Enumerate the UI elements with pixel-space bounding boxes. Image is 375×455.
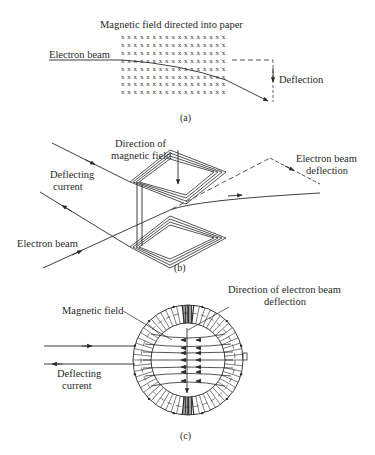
field-x-marker: x bbox=[197, 49, 201, 57]
winding-turn bbox=[133, 364, 151, 366]
deflecting-current-label-c-line2: current bbox=[62, 380, 92, 391]
field-x-marker-grid: xxxxxxxxxxxxxxxxxxxxxxxxxxxxxxxxxxxxxxxx… bbox=[121, 33, 226, 96]
beam-deflection-direction-label-line2: deflection bbox=[264, 296, 307, 307]
field-x-marker: x bbox=[159, 73, 163, 81]
field-x-marker: x bbox=[216, 57, 220, 65]
current-in-arrow-icon bbox=[85, 160, 95, 165]
beam-deflection-label-line1: Electron beam bbox=[296, 153, 357, 164]
current-out-arrow-icon bbox=[62, 205, 72, 211]
winding-terminal-dot bbox=[201, 306, 203, 308]
winding-turn bbox=[177, 396, 181, 414]
field-x-marker: x bbox=[216, 88, 220, 96]
field-x-marker: x bbox=[190, 80, 194, 88]
beam-in-arrow-icon bbox=[72, 250, 82, 255]
field-x-marker: x bbox=[203, 80, 207, 88]
field-x-marker: x bbox=[165, 73, 169, 81]
field-x-marker: x bbox=[153, 73, 157, 81]
field-x-marker: x bbox=[171, 33, 175, 41]
field-x-marker: x bbox=[190, 73, 194, 81]
winding-terminal-dot bbox=[148, 398, 150, 400]
electron-beam-label-b: Electron beam bbox=[17, 238, 78, 249]
field-x-marker: x bbox=[146, 41, 150, 49]
winding-turn bbox=[224, 349, 242, 353]
field-x-marker: x bbox=[121, 80, 125, 88]
field-x-marker: x bbox=[127, 88, 131, 96]
field-x-marker: x bbox=[146, 88, 150, 96]
field-x-marker: x bbox=[184, 49, 188, 57]
field-x-marker: x bbox=[184, 88, 188, 96]
lower-deflection-coil bbox=[130, 216, 226, 268]
field-x-marker: x bbox=[216, 80, 220, 88]
winding-turn bbox=[134, 349, 152, 353]
winding-terminal-dot bbox=[226, 398, 228, 400]
field-x-marker: x bbox=[209, 57, 213, 65]
field-x-marker: x bbox=[216, 49, 220, 57]
field-x-marker: x bbox=[184, 57, 188, 65]
deflection-arrow-b-icon bbox=[285, 166, 294, 171]
field-x-marker: x bbox=[153, 49, 157, 57]
field-x-marker: x bbox=[209, 49, 213, 57]
field-x-marker: x bbox=[121, 65, 125, 73]
winding-turn bbox=[134, 368, 152, 372]
field-x-marker: x bbox=[146, 73, 150, 81]
field-x-marker: x bbox=[127, 33, 131, 41]
field-x-marker: x bbox=[159, 88, 163, 96]
field-x-marker: x bbox=[209, 33, 213, 41]
field-x-marker: x bbox=[197, 73, 201, 81]
field-x-marker: x bbox=[222, 49, 226, 57]
field-x-marker: x bbox=[146, 49, 150, 57]
deflecting-current-label-c-line1: Deflecting bbox=[57, 368, 102, 379]
field-x-marker: x bbox=[121, 49, 125, 57]
yoke-connector-tab bbox=[243, 353, 247, 360]
field-x-marker: x bbox=[190, 65, 194, 73]
field-x-marker: x bbox=[203, 65, 207, 73]
beam-deflection-direction-label-line1: Direction of electron beam bbox=[228, 284, 341, 295]
field-x-marker: x bbox=[197, 57, 201, 65]
winding-turn bbox=[171, 395, 177, 412]
field-x-marker: x bbox=[171, 88, 175, 96]
winding-turn bbox=[218, 382, 233, 393]
field-x-marker: x bbox=[146, 65, 150, 73]
field-x-marker: x bbox=[140, 80, 144, 88]
field-x-marker: x bbox=[140, 33, 144, 41]
winding-turn bbox=[156, 390, 167, 405]
beam-deflection-label-line2: deflection bbox=[306, 165, 349, 176]
winding-terminal-dot bbox=[226, 320, 228, 322]
winding-turn bbox=[144, 328, 159, 339]
caption-c: (c) bbox=[180, 430, 191, 442]
field-x-marker: x bbox=[153, 65, 157, 73]
field-x-marker: x bbox=[209, 65, 213, 73]
field-x-marker: x bbox=[171, 73, 175, 81]
winding-turn bbox=[133, 354, 151, 356]
field-x-marker: x bbox=[178, 73, 182, 81]
field-x-marker: x bbox=[121, 41, 125, 49]
field-x-marker: x bbox=[222, 88, 226, 96]
field-x-marker: x bbox=[171, 41, 175, 49]
electron-beam-deflection-diagram: Magnetic field directed into paper xxxxx… bbox=[0, 0, 375, 455]
field-x-marker: x bbox=[171, 57, 175, 65]
winding-turn bbox=[225, 354, 243, 356]
field-x-marker: x bbox=[159, 49, 163, 57]
field-x-marker: x bbox=[140, 88, 144, 96]
field-x-marker: x bbox=[146, 33, 150, 41]
winding-turn bbox=[136, 343, 153, 349]
field-x-marker: x bbox=[171, 80, 175, 88]
winding-terminal-dot bbox=[134, 373, 136, 375]
field-x-marker: x bbox=[171, 49, 175, 57]
field-x-marker: x bbox=[153, 33, 157, 41]
field-x-marker: x bbox=[190, 33, 194, 41]
field-x-marker: x bbox=[159, 65, 163, 73]
field-x-marker: x bbox=[184, 73, 188, 81]
field-x-marker: x bbox=[165, 80, 169, 88]
field-into-paper-label: Magnetic field directed into paper bbox=[100, 19, 243, 30]
field-x-marker: x bbox=[165, 41, 169, 49]
field-x-marker: x bbox=[140, 73, 144, 81]
field-x-marker: x bbox=[178, 88, 182, 96]
field-x-marker: x bbox=[165, 33, 169, 41]
field-x-marker: x bbox=[159, 33, 163, 41]
field-x-marker: x bbox=[203, 88, 207, 96]
field-x-marker: x bbox=[127, 65, 131, 73]
field-x-marker: x bbox=[159, 80, 163, 88]
beam-out-arrow-icon bbox=[228, 195, 242, 196]
field-x-marker: x bbox=[134, 88, 138, 96]
